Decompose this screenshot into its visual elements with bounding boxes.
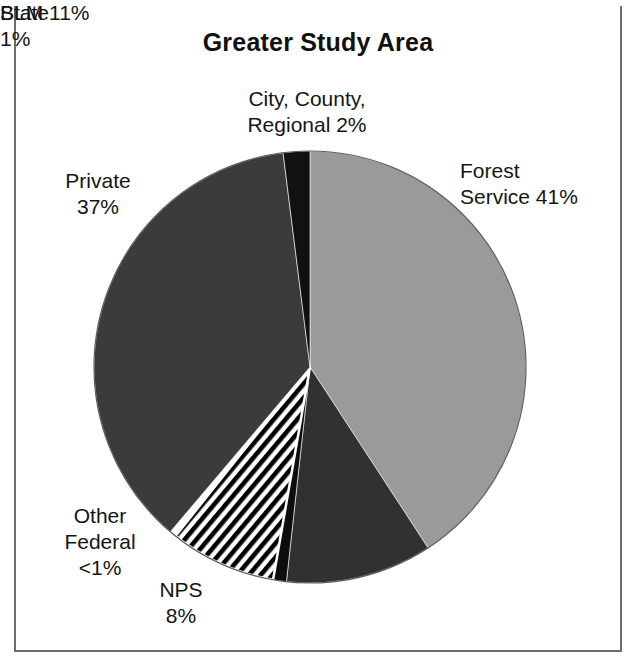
slice-label-nps: NPS 8% <box>136 577 226 629</box>
pie-chart-figure: Greater Study Area City, County, Regiona… <box>0 0 636 671</box>
slice-label-forest-service: Forest Service 41% <box>460 158 628 210</box>
slice-label-blm: BLM 11% <box>0 0 90 26</box>
slice-label-other-federal: Other Federal <1% <box>40 503 160 581</box>
slice-label-city-county-regional: City, County, Regional 2% <box>192 86 422 138</box>
slice-label-private: Private 37% <box>34 168 162 220</box>
